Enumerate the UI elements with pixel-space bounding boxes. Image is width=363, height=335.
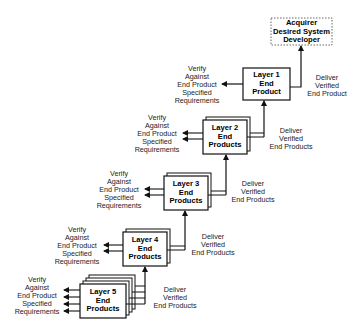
layer-4-verify-text: Verify Against End Product Specified Req…	[52, 226, 102, 266]
verify-line: Requirements	[132, 146, 182, 154]
deliver-line: End Products	[266, 143, 316, 151]
layer-3-deliver-text: Deliver Verified End Products	[228, 180, 278, 204]
layer-5-verify-text: Verify Against End Product Specified Req…	[12, 276, 62, 316]
layer-4-deliver-text: Deliver Verified End Products	[188, 233, 238, 257]
layer-4-label: Layer 4 End Products	[123, 236, 167, 262]
acquirer-label: Acquirer Desired System Developer	[271, 19, 332, 45]
layer-3-label: Layer 3 End Products	[164, 180, 208, 206]
layer-3-line-3: Products	[164, 197, 208, 206]
layer-1-verify-text: Verify Against End Product Specified Req…	[172, 65, 222, 105]
verify-line: Requirements	[172, 97, 222, 105]
layer-1-line-3: Product	[243, 88, 290, 97]
layer-5-line-3: Products	[80, 305, 126, 314]
acquirer-line-3: Developer	[271, 36, 332, 45]
layer-4-line-3: Products	[123, 253, 167, 262]
layer-2-label: Layer 2 End Products	[203, 124, 247, 150]
deliver-arrow-layer-1	[290, 46, 301, 87]
layer-2-deliver-text: Deliver Verified End Products	[266, 127, 316, 151]
verify-line: Requirements	[52, 258, 102, 266]
layer-2-line-3: Products	[203, 141, 247, 150]
layer-5-deliver-text: Deliver Verified End Products	[150, 286, 200, 310]
deliver-line: End Product	[304, 90, 350, 98]
layer-5-label: Layer 5 End Products	[80, 288, 126, 314]
layer-1-label: Layer 1 End Product	[243, 71, 290, 97]
layer-1-deliver-text: Deliver Verified End Product	[304, 74, 350, 98]
layer-3-verify-text: Verify Against End Product Specified Req…	[94, 170, 144, 210]
deliver-line: End Products	[228, 196, 278, 204]
verify-line: Requirements	[12, 308, 62, 316]
layer-2-verify-text: Verify Against End Product Specified Req…	[132, 114, 182, 154]
verify-line: Requirements	[94, 202, 144, 210]
deliver-line: End Products	[188, 249, 238, 257]
deliver-line: End Products	[150, 302, 200, 310]
